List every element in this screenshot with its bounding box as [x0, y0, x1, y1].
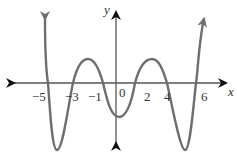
tick-label-2: 2	[144, 89, 151, 104]
x-axis-label: x	[227, 84, 234, 99]
tick-label-neg3: −3	[65, 89, 79, 104]
tick-label-neg5: −5	[32, 89, 46, 104]
tick-label-4: 4	[164, 89, 171, 104]
y-axis-label: y	[102, 2, 110, 17]
tick-label-0: 0	[119, 85, 126, 100]
tick-label-neg1: −1	[88, 89, 102, 104]
polynomial-graph: y x −5 −3 −1 0 2 4 6	[0, 0, 237, 153]
tick-label-6: 6	[201, 89, 208, 104]
